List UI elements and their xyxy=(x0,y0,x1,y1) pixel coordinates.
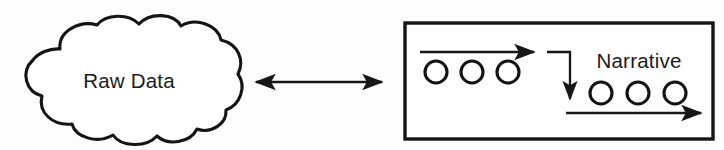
token-circle xyxy=(461,61,483,83)
cloud-label: Raw Data xyxy=(83,69,175,92)
token-circle xyxy=(497,61,519,83)
flow-diagram-svg: Raw Data Narrative xyxy=(0,0,724,150)
input-token-group xyxy=(425,61,519,83)
token-circle xyxy=(425,61,447,83)
process-box-outline xyxy=(405,23,713,139)
token-circle xyxy=(664,82,686,104)
narrative-label: Narrative xyxy=(597,49,682,72)
token-circle xyxy=(627,82,649,104)
token-circle xyxy=(590,82,612,104)
output-token-group xyxy=(590,82,686,104)
process-box-node: Narrative xyxy=(405,23,713,139)
diagram-canvas: Raw Data Narrative xyxy=(0,0,724,150)
cloud-node: Raw Data xyxy=(26,16,242,145)
